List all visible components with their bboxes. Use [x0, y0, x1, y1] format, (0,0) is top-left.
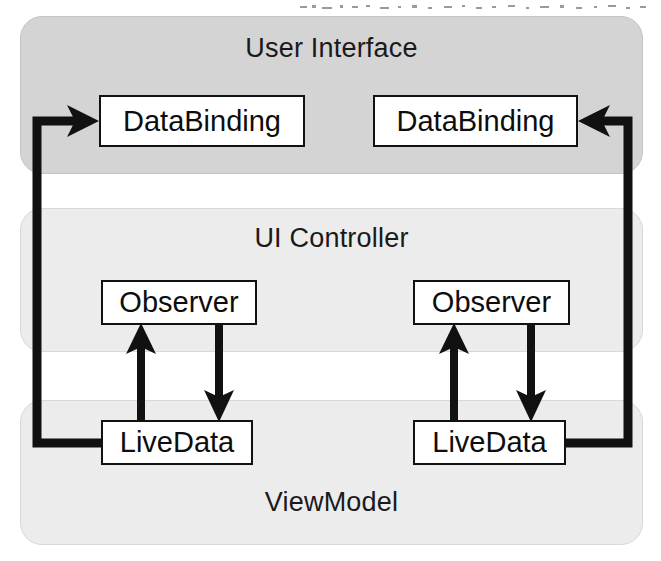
- node-databinding-right[interactable]: DataBinding: [373, 95, 578, 147]
- node-databinding-right-label: DataBinding: [397, 107, 555, 136]
- connector-observer-left-to-livedata-left: [204, 325, 234, 422]
- node-livedata-left[interactable]: LiveData: [101, 420, 253, 465]
- node-observer-right[interactable]: Observer: [413, 280, 570, 325]
- connector-livedata-right-to-databinding-right: [566, 105, 628, 443]
- node-livedata-right[interactable]: LiveData: [413, 420, 566, 465]
- connector-livedata-left-to-databinding-left: [37, 105, 101, 443]
- node-livedata-left-label: LiveData: [120, 428, 234, 457]
- node-observer-right-label: Observer: [432, 288, 551, 317]
- diagram-canvas: User Interface UI Controller ViewModel: [0, 0, 661, 561]
- connector-livedata-right-to-observer-right: [439, 323, 469, 420]
- node-databinding-left-label: DataBinding: [123, 107, 281, 136]
- node-observer-left-label: Observer: [119, 288, 238, 317]
- connector-livedata-left-to-observer-left: [126, 323, 156, 420]
- node-livedata-right-label: LiveData: [432, 428, 546, 457]
- node-databinding-left[interactable]: DataBinding: [99, 95, 305, 147]
- connector-observer-right-to-livedata-right: [516, 325, 546, 422]
- node-observer-left[interactable]: Observer: [101, 280, 257, 325]
